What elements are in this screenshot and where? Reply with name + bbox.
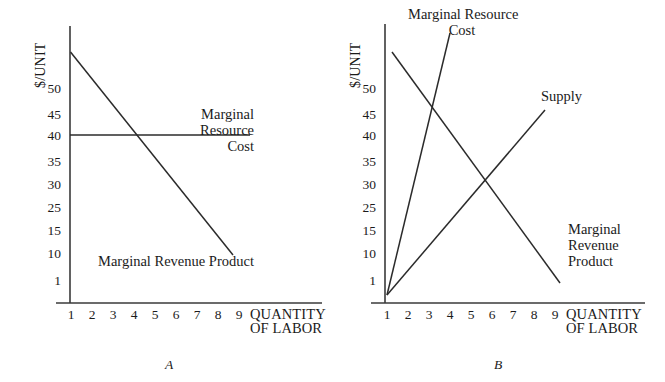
y-tick-a-35: 35 (35, 155, 61, 169)
supply-curve-b (387, 110, 545, 295)
x-tick-a-3: 3 (105, 308, 121, 322)
x-axis-title-b-line2: OF LABOR (566, 321, 638, 336)
x-tick-b-6: 6 (484, 308, 500, 322)
y-tick-b-25: 25 (350, 201, 376, 215)
x-tick-a-6: 6 (168, 308, 184, 322)
x-tick-b-5: 5 (463, 308, 479, 322)
y-tick-b-15: 15 (350, 224, 376, 238)
x-tick-b-2: 2 (400, 308, 416, 322)
y-tick-b-40: 40 (350, 129, 376, 143)
panel-a-caption: A (149, 358, 189, 372)
y-tick-b-50: 50 (350, 82, 376, 96)
supply-label-b: Supply (541, 89, 582, 105)
y-tick-a-45: 45 (35, 108, 61, 122)
x-tick-a-2: 2 (84, 308, 100, 322)
x-tick-a-5: 5 (147, 308, 163, 322)
mrp-label-b-line1: Marginal (568, 222, 621, 238)
panel-b: $/UNIT 50 45 40 35 30 25 15 10 1 1 2 3 4… (330, 0, 662, 382)
two-panel-economics-figure: $/UNIT 50 45 40 35 30 25 15 10 1 1 2 3 4… (0, 0, 665, 382)
y-tick-b-35: 35 (350, 155, 376, 169)
mrp-label-b-line2: Revenue (568, 238, 619, 254)
x-tick-b-8: 8 (526, 308, 542, 322)
mrp-label-b-line3: Product (568, 254, 613, 270)
y-tick-b-30: 30 (350, 178, 376, 192)
mrc-label-a-line1: Marginal (180, 107, 254, 123)
y-tick-b-10: 10 (350, 247, 376, 261)
panel-b-caption: B (478, 358, 518, 372)
y-tick-b-45: 45 (350, 108, 376, 122)
panel-a: $/UNIT 50 45 40 35 30 25 15 10 1 1 2 3 4… (0, 0, 332, 382)
y-tick-a-10: 10 (35, 247, 61, 261)
mrc-label-a-line3: Cost (180, 139, 254, 155)
mrc-label-a-line2: Resource (180, 123, 254, 139)
x-tick-b-4: 4 (442, 308, 458, 322)
x-tick-a-7: 7 (189, 308, 205, 322)
x-tick-b-7: 7 (505, 308, 521, 322)
y-tick-a-15: 15 (35, 224, 61, 238)
mrc-label-b-line2: Cost (422, 23, 502, 39)
y-tick-a-40: 40 (35, 129, 61, 143)
y-tick-a-25: 25 (35, 201, 61, 215)
x-tick-b-1: 1 (379, 308, 395, 322)
x-tick-a-9: 9 (231, 308, 247, 322)
x-tick-a-8: 8 (210, 308, 226, 322)
x-tick-a-4: 4 (126, 308, 142, 322)
y-tick-a-30: 30 (35, 178, 61, 192)
y-tick-b-1: 1 (350, 274, 376, 288)
y-tick-a-50: 50 (35, 82, 61, 96)
x-tick-b-9: 9 (547, 308, 563, 322)
mrp-label-a: Marginal Revenue Product (98, 254, 254, 270)
x-tick-b-3: 3 (421, 308, 437, 322)
x-axis-title-a-line2: OF LABOR (250, 321, 322, 336)
mrc-curve-b (387, 33, 450, 295)
x-tick-a-1: 1 (63, 308, 79, 322)
mrc-label-b-line1: Marginal Resource (408, 7, 518, 23)
y-tick-a-1: 1 (35, 274, 61, 288)
